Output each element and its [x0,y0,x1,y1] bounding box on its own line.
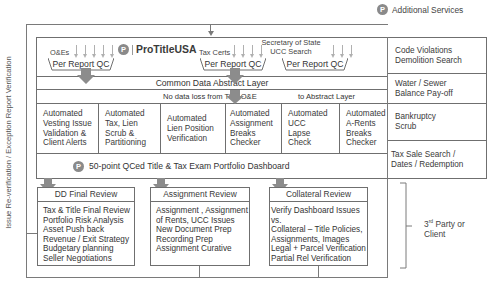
outer-frame-top [26,24,388,25]
top-connector-arrowhead [208,31,214,36]
source-tax-certs-label: Tax Certs [199,49,230,58]
no-data-loss-right: to Abstract Layer [298,90,355,103]
automated-a-rents-breaks: AutomatedA-RentsBreaksChecker [340,104,388,153]
left-vertical-label: Issue Re-verification / Exception Report… [4,13,13,273]
source-sos-ucc-label: Secretary of State UCC Search [255,39,327,56]
assignment-review-box: Assignment Review Assignment , Assignmen… [150,187,250,266]
outer-frame-bottom [26,277,388,278]
side-service-bankruptcy: BankruptcyScrub [387,104,486,141]
assignment-review-title: Assignment Review [151,188,249,202]
automated-checks-row: AutomatedVesting IssueValidation &Client… [37,104,387,154]
fat-arrow-down-icon [77,68,95,84]
automated-lien-position: AutomatedLien PositionVerification [161,104,226,153]
side-service-code-violations: Code ViolationsDemolition Search [387,38,486,74]
third-party-label: 3rd Party or Client [424,216,465,239]
additional-services-label: Additional Services [392,5,463,15]
collateral-review-items: Verify Dashboard Issuesvs.Collateral – T… [270,202,367,264]
source-oes-label: O&Es [50,49,69,58]
brand-divider [132,45,133,55]
automated-assignment-breaks: AutomatedAssignmentBreaksChecker [226,104,282,153]
side-service-water-sewer: Water / SewerBalance Pay-off [387,74,486,104]
automated-vesting-issue: AutomatedVesting IssueValidation &Client… [37,104,99,153]
side-services-column: Code ViolationsDemolition Search Water /… [387,37,487,179]
dashboard-row: P 50-point QCed Title & Tax Exam Portfol… [37,154,387,178]
outer-frame-left [26,24,27,277]
source-sos-ucc-arrows [330,45,354,58]
source-oes-arrows [73,45,115,58]
dd-left-connector [26,233,37,234]
side-divider [387,37,388,179]
p-logo-icon: P [73,161,84,172]
no-data-loss-row: No data loss from Title O&E to Abstract … [37,90,387,104]
brand-name: ProTitleUSA [136,44,196,55]
dashboard-label: 50-point QCed Title & Tax Exam Portfolio… [89,161,289,171]
abstract-layer-title: Common Data Abstract Layer [156,78,269,88]
bracket-icon [400,182,414,270]
additional-services-legend: P Additional Services [377,4,463,15]
assignment-bottom-connector [199,266,200,277]
dd-final-review-title: DD Final Review [38,188,134,202]
collateral-bottom-connector [318,266,319,277]
assignment-review-items: Assignment , Assignmentof Rents, UCC Iss… [151,202,249,254]
collateral-review-box: Collateral Review Verify Dashboard Issue… [269,187,368,266]
side-service-tax-sale: Tax Sale Search /Dates / Redemption [387,141,486,179]
p-logo-icon: P [377,4,388,15]
automated-ucc-lapse: AutomatedUCCLapseCheck [282,104,340,153]
collateral-review-title: Collateral Review [270,188,367,202]
dd-final-review-box: DD Final Review Tax & Title Final Review… [37,187,135,266]
main-process-box: O&Es Per Report QC P ProTitleUSA Tax Cer… [36,37,388,179]
dd-final-review-items: Tax & Title Final ReviewPortfolio Risk A… [38,202,134,264]
p-logo-icon: P [118,44,129,55]
brand: P ProTitleUSA [118,44,196,55]
automated-tax-lien-scrub: AutomatedTax, LienScrub &Partitioning [99,104,161,153]
outer-frame-right [387,178,388,278]
fat-arrow-down-icon [226,68,244,84]
fat-arrow-down-icon [226,90,244,104]
per-report-qc-sos-ucc: Per Report QC [282,58,348,70]
